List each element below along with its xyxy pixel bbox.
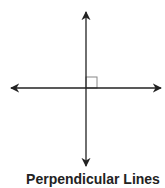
- diagram-caption: Perpendicular Lines: [0, 171, 165, 187]
- perpendicular-lines-diagram: [0, 0, 165, 170]
- right-angle-marker: [86, 77, 97, 88]
